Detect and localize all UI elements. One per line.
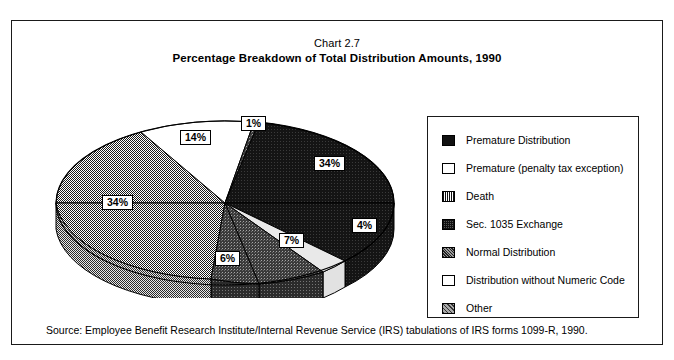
legend-swatch-icon [442, 163, 455, 174]
legend-item-label: Distribution without Numeric Code [466, 274, 625, 286]
legend-item-label: Premature Distribution [466, 134, 570, 146]
legend-item-sec-1035-exchange[interactable]: Sec. 1035 Exchange [442, 217, 563, 231]
page-title: Percentage Breakdown of Total Distributi… [12, 52, 662, 64]
legend-swatch-icon [442, 303, 455, 314]
legend-item-other[interactable]: Other [442, 301, 492, 315]
pie-label-other: 1% [241, 116, 266, 131]
legend: Premature Distribution Premature (penalt… [427, 116, 639, 318]
legend-item-label: Death [466, 190, 494, 202]
pie-label-normal-distribution: 34% [102, 195, 133, 210]
legend-item-premature-distribution[interactable]: Premature Distribution [442, 133, 570, 147]
legend-swatch-icon [442, 191, 455, 202]
pie-label-premature-exception: 4% [352, 218, 377, 233]
source-note: Source: Employee Benefit Research Instit… [46, 324, 588, 336]
legend-item-label: Normal Distribution [466, 246, 555, 258]
legend-swatch-icon [442, 247, 455, 258]
legend-item-premature-penalty-tax-exception[interactable]: Premature (penalty tax exception) [442, 161, 624, 175]
pie-label-premature-distribution: 34% [314, 156, 345, 171]
pie-chart: 14% 1% 34% 4% 7% 6% 34% [45, 83, 405, 298]
legend-item-label: Premature (penalty tax exception) [466, 162, 624, 174]
legend-item-label: Sec. 1035 Exchange [466, 218, 563, 230]
legend-swatch-icon [442, 219, 455, 230]
chart-number: Chart 2.7 [12, 37, 662, 49]
legend-item-death[interactable]: Death [442, 189, 494, 203]
legend-item-normal-distribution[interactable]: Normal Distribution [442, 245, 555, 259]
pie-label-death: 7% [279, 233, 304, 248]
legend-item-distribution-without-numeric-code[interactable]: Distribution without Numeric Code [442, 273, 625, 287]
legend-swatch-icon [442, 135, 455, 146]
legend-swatch-icon [442, 275, 455, 286]
figure-frame: Chart 2.7 Percentage Breakdown of Total … [11, 20, 663, 345]
pie-label-no-numeric-code: 14% [180, 130, 211, 145]
pie-label-sec-1035-exchange: 6% [215, 251, 240, 266]
legend-item-label: Other [466, 302, 492, 314]
slice-normal-distribution-lower [56, 203, 225, 279]
